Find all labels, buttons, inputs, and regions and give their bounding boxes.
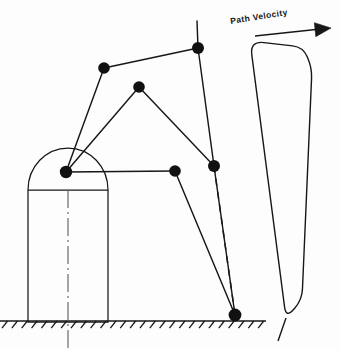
link-mid-arm-to-tool-tip bbox=[175, 171, 235, 315]
ground-hatch-mark bbox=[2, 321, 8, 328]
ground-hatch-mark bbox=[160, 321, 166, 328]
pedestal-group bbox=[28, 148, 108, 348]
joint-markers bbox=[60, 42, 242, 321]
diagram-canvas: Path Velocity bbox=[0, 0, 340, 350]
ground-hatch-mark bbox=[209, 321, 215, 328]
ground-hatch-mark bbox=[150, 321, 156, 328]
velocity-profile-group bbox=[252, 23, 331, 341]
link-shoulder-to-apex bbox=[66, 87, 139, 172]
ground-hatch-mark bbox=[169, 321, 175, 328]
mid-arm-joint bbox=[169, 165, 181, 177]
ground-hatch-mark bbox=[238, 321, 244, 328]
ground-hatch-mark bbox=[199, 321, 205, 328]
upper-right-joint bbox=[192, 42, 204, 54]
ground-hatch-mark bbox=[179, 321, 185, 328]
ground-hatch-mark bbox=[219, 321, 225, 328]
ground-hatch-mark bbox=[248, 321, 254, 328]
link-upper-left-to-upper-right bbox=[104, 48, 198, 68]
tool-tip-joint bbox=[229, 309, 242, 322]
path-velocity-arrow-head bbox=[314, 23, 331, 37]
ground-hatch-mark bbox=[140, 321, 146, 328]
ground-hatch-mark bbox=[110, 321, 116, 328]
ground-hatch-mark bbox=[12, 321, 18, 328]
ground-hatch-mark bbox=[258, 321, 264, 328]
velocity-profile-outline bbox=[252, 42, 312, 313]
ground-hatch-mark bbox=[120, 321, 126, 328]
ground-hatch-mark bbox=[229, 321, 235, 328]
shoulder-pivot bbox=[60, 166, 72, 178]
path-velocity-arrow-shaft bbox=[255, 29, 318, 36]
ground-hatch-mark bbox=[22, 321, 28, 328]
ground-hatch-mark bbox=[189, 321, 195, 328]
link-upper-right-to-right-elbow bbox=[198, 48, 214, 166]
ground-hatch-mark bbox=[130, 321, 136, 328]
upper-left-joint bbox=[98, 62, 110, 74]
link-shoulder-to-mid-arm bbox=[66, 171, 175, 172]
velocity-profile-baseline bbox=[278, 318, 286, 341]
link-shoulder-to-upper-left bbox=[66, 68, 104, 172]
link-right-elbow-to-tool-tip bbox=[214, 166, 235, 315]
apex-joint bbox=[133, 81, 145, 93]
kinematic-diagram-svg bbox=[0, 0, 340, 350]
link-apex-to-right-elbow bbox=[139, 87, 214, 166]
right-elbow-joint bbox=[208, 160, 220, 172]
